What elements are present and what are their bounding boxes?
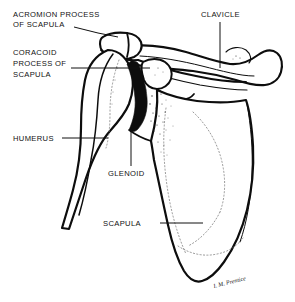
label-coracoid-line-2: PROCESS OF	[13, 59, 66, 68]
leader-line-acromion	[74, 27, 118, 37]
scapula-body	[151, 90, 253, 282]
label-humerus: HUMERUS	[13, 134, 54, 143]
artist-signature: I. M. Prentice	[212, 275, 247, 289]
label-coracoid-line-3: SCAPULA	[13, 70, 51, 79]
label-acromion-process-of-scapula: ACROMION PROCESS OF SCAPULA	[13, 10, 100, 29]
label-acromion-line-2: OF SCAPULA	[13, 20, 65, 29]
label-glenoid: GLENOID	[108, 169, 145, 178]
bone-artwork-group	[62, 33, 282, 282]
label-coracoid-line-1: CORACOID	[13, 48, 57, 57]
label-coracoid-process-of-scapula: CORACOID PROCESS OF SCAPULA	[13, 48, 66, 79]
anatomy-diagram: ACROMION PROCESS OF SCAPULA CORACOID PRO…	[0, 0, 295, 302]
label-scapula: SCAPULA	[103, 219, 141, 228]
label-clavicle: CLAVICLE	[201, 10, 240, 19]
label-acromion-line-1: ACROMION PROCESS	[13, 10, 100, 19]
humerus-bone	[62, 50, 133, 229]
shoulder-anatomy-illustration: ACROMION PROCESS OF SCAPULA CORACOID PRO…	[0, 0, 295, 302]
